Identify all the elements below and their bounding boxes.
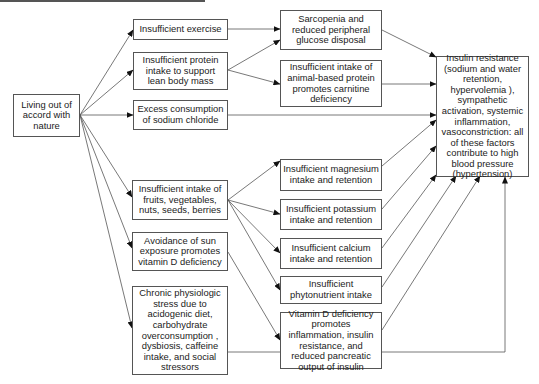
- mechanism-label: Sarcopenia and reduced peripheral glucos…: [283, 14, 379, 46]
- mechanism-label: Insufficient calcium intake and retentio…: [283, 243, 379, 264]
- edge-root-stress: [80, 115, 132, 328]
- cause-label: Chronic physiologic stress due to acidog…: [135, 288, 225, 373]
- edge-sun-vitd: [228, 252, 280, 340]
- edge-root-protein: [80, 70, 133, 115]
- edge-fruits-magnesium: [228, 161, 280, 200]
- root-label: Living out of accord with nature: [16, 100, 77, 132]
- cause-box-protein: Insufficient protein intake to support l…: [133, 52, 228, 90]
- edge-calcium-outcome: [382, 175, 436, 248]
- cause-box-stress: Chronic physiologic stress due to acidog…: [132, 286, 228, 375]
- outcome-label: Insulin resistance (sodium and water ret…: [439, 53, 526, 180]
- root-box: Living out of accord with nature: [13, 94, 80, 137]
- cause-box-sun: Avoidance of sun exposure promotes vitam…: [132, 232, 228, 271]
- outcome-box: Insulin resistance (sodium and water ret…: [436, 56, 529, 177]
- edge-potassium-outcome: [382, 146, 436, 209]
- edge-root-exercise: [80, 30, 133, 115]
- edge-root-fruits: [80, 115, 132, 197]
- cause-label: Avoidance of sun exposure promotes vitam…: [135, 236, 225, 268]
- cause-box-sodium: Excess consumption of sodium chloride: [133, 100, 228, 130]
- mechanism-box-magnesium: Insufficient magnesium intake and retent…: [280, 159, 382, 191]
- mechanism-label: Insufficient intake of animal-based prot…: [283, 62, 379, 104]
- edge-vitd-outcome: [382, 176, 480, 330]
- cause-label: Excess consumption of sodium chloride: [136, 104, 225, 125]
- cause-box-exercise: Insufficient exercise: [133, 19, 228, 40]
- mechanism-label: Vitamin D deficiency promotes inflammati…: [283, 309, 379, 373]
- mechanism-box-vitd: Vitamin D deficiency promotes inflammati…: [280, 312, 382, 369]
- edge-root-sun: [80, 115, 132, 248]
- mechanism-box-sarcopenia: Sarcopenia and reduced peripheral glucos…: [280, 10, 382, 50]
- cause-label: Insufficient protein intake to support l…: [136, 55, 225, 87]
- mechanism-box-phyto: Insufficient phytonutrient intake: [280, 276, 382, 304]
- mechanism-box-calcium: Insufficient calcium intake and retentio…: [280, 238, 382, 269]
- mechanism-box-potassium: Insufficient potassium intake and retent…: [280, 199, 382, 230]
- mechanism-label: Insufficient potassium intake and retent…: [283, 204, 379, 225]
- edge-fruits-potassium: [228, 200, 280, 214]
- mechanism-box-carnitine: Insufficient intake of animal-based prot…: [280, 60, 382, 107]
- edge-sarcopenia-outcome: [382, 30, 436, 57]
- cause-box-fruits: Insufficient intake of fruits, vegetable…: [132, 180, 228, 220]
- cause-label: Insufficient intake of fruits, vegetable…: [135, 184, 225, 216]
- edge-protein-sarcopenia: [228, 40, 280, 70]
- cause-label: Insufficient exercise: [139, 24, 221, 35]
- edge-protein-carnitine: [228, 70, 280, 84]
- mechanism-label: Insufficient phytonutrient intake: [283, 279, 379, 300]
- edge-magnesium-outcome: [382, 120, 436, 166]
- mechanism-label: Insufficient magnesium intake and retent…: [283, 164, 379, 185]
